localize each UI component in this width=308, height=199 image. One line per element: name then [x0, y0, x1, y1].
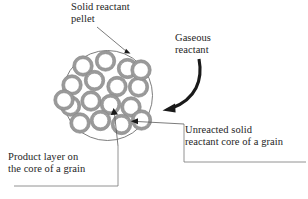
- label-unreacted-solid-reactant-core: Unreacted solid reactant core of a grain: [185, 124, 283, 149]
- grain-unreacted-core: [87, 73, 102, 88]
- label-solid-reactant-pellet: Solid reactant pellet: [71, 1, 130, 26]
- grain-unreacted-core: [110, 79, 125, 94]
- grain-unreacted-core: [134, 63, 149, 78]
- grain-unreacted-core: [84, 94, 99, 109]
- label-gaseous-reactant: Gaseous reactant: [175, 32, 211, 57]
- grain-unreacted-core: [76, 59, 91, 74]
- grain-unreacted-core: [57, 93, 72, 108]
- pellet-leader-line: [97, 27, 131, 54]
- grain-unreacted-core: [103, 97, 118, 112]
- figure-canvas: Solid reactant pellet Gaseous reactant U…: [0, 0, 308, 199]
- grain-unreacted-core: [98, 54, 113, 69]
- grain-unreacted-core: [131, 80, 146, 95]
- grain-unreacted-core: [93, 113, 108, 128]
- gaseous-reactant-arrow: [163, 59, 201, 113]
- grain-unreacted-core: [73, 116, 88, 131]
- label-product-layer: Product layer on the core of a grain: [8, 151, 85, 176]
